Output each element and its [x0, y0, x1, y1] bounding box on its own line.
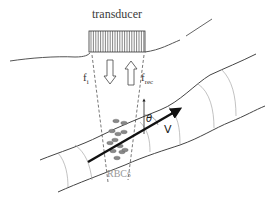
doppler-diagram: transducer fi frec θ V RBCs — [0, 0, 270, 209]
red-blood-cell — [112, 138, 118, 142]
beam-left-edge — [92, 55, 108, 182]
vessel-upper-wall — [40, 54, 256, 160]
incident-frequency-subscript: i — [87, 78, 89, 86]
velocity-label: V — [164, 124, 172, 135]
skin-surface-far-line — [186, 19, 212, 36]
incident-wave-arrow — [104, 60, 116, 84]
red-blood-cell — [121, 130, 127, 134]
transducer-label: transducer — [92, 8, 142, 20]
red-blood-cell — [107, 141, 113, 145]
diagram-canvas — [0, 0, 270, 209]
red-blood-cell — [115, 132, 121, 136]
red-blood-cell — [109, 129, 115, 133]
red-blood-cell — [122, 148, 128, 152]
incident-frequency-label: fi — [83, 72, 89, 86]
received-frequency-label: frec — [141, 72, 153, 86]
ultrasound-beam — [92, 55, 144, 182]
red-blood-cell — [114, 156, 120, 160]
red-blood-cell — [121, 121, 127, 125]
rbcs-label: RBCs — [107, 169, 131, 179]
received-wave-arrow — [125, 61, 137, 85]
theta-label: θ — [146, 114, 152, 124]
velocity-vector-arrow — [88, 110, 178, 162]
red-blood-cell — [113, 119, 119, 123]
received-frequency-subscript: rec — [145, 78, 154, 86]
transducer-probe — [89, 31, 145, 52]
